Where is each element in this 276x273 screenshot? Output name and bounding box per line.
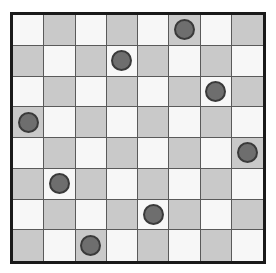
checkerboard	[10, 12, 266, 264]
board-cell-r5c5[interactable]	[138, 138, 169, 169]
board-cell-r5c1[interactable]	[13, 138, 44, 169]
board-cell-r6c7[interactable]	[201, 169, 232, 200]
checkerboard-grid	[13, 15, 263, 261]
board-cell-r5c2[interactable]	[44, 138, 75, 169]
board-cell-r4c6[interactable]	[169, 107, 200, 138]
board-cell-r8c5[interactable]	[138, 230, 169, 261]
board-cell-r8c1[interactable]	[13, 230, 44, 261]
board-cell-r6c8[interactable]	[232, 169, 263, 200]
board-cell-r2c7[interactable]	[201, 46, 232, 77]
board-cell-r5c4[interactable]	[107, 138, 138, 169]
board-cell-r7c7[interactable]	[201, 200, 232, 231]
board-cell-r6c6[interactable]	[169, 169, 200, 200]
board-cell-r8c8[interactable]	[232, 230, 263, 261]
board-cell-r1c4[interactable]	[107, 15, 138, 46]
board-cell-r1c6[interactable]	[169, 15, 200, 46]
board-cell-r2c3[interactable]	[76, 46, 107, 77]
board-cell-r3c5[interactable]	[138, 77, 169, 108]
board-cell-r5c7[interactable]	[201, 138, 232, 169]
game-piece-r5c8[interactable]	[237, 142, 258, 163]
board-cell-r1c8[interactable]	[232, 15, 263, 46]
board-cell-r2c6[interactable]	[169, 46, 200, 77]
board-cell-r5c8[interactable]	[232, 138, 263, 169]
board-cell-r3c3[interactable]	[76, 77, 107, 108]
board-cell-r3c1[interactable]	[13, 77, 44, 108]
board-cell-r4c7[interactable]	[201, 107, 232, 138]
board-cell-r8c6[interactable]	[169, 230, 200, 261]
board-cell-r4c5[interactable]	[138, 107, 169, 138]
board-cell-r8c7[interactable]	[201, 230, 232, 261]
game-piece-r7c5[interactable]	[143, 204, 164, 225]
board-cell-r2c8[interactable]	[232, 46, 263, 77]
board-cell-r7c2[interactable]	[44, 200, 75, 231]
board-cell-r2c5[interactable]	[138, 46, 169, 77]
game-piece-r8c3[interactable]	[80, 235, 101, 256]
board-cell-r6c2[interactable]	[44, 169, 75, 200]
board-cell-r5c6[interactable]	[169, 138, 200, 169]
board-cell-r3c4[interactable]	[107, 77, 138, 108]
board-cell-r3c2[interactable]	[44, 77, 75, 108]
board-cell-r7c3[interactable]	[76, 200, 107, 231]
board-cell-r1c1[interactable]	[13, 15, 44, 46]
game-piece-r3c7[interactable]	[205, 81, 226, 102]
game-piece-r6c2[interactable]	[49, 173, 70, 194]
board-cell-r6c3[interactable]	[76, 169, 107, 200]
board-cell-r7c8[interactable]	[232, 200, 263, 231]
board-cell-r3c6[interactable]	[169, 77, 200, 108]
board-cell-r5c3[interactable]	[76, 138, 107, 169]
board-cell-r1c7[interactable]	[201, 15, 232, 46]
game-piece-r2c4[interactable]	[111, 50, 132, 71]
board-cell-r1c5[interactable]	[138, 15, 169, 46]
board-cell-r7c5[interactable]	[138, 200, 169, 231]
board-cell-r7c4[interactable]	[107, 200, 138, 231]
board-cell-r4c2[interactable]	[44, 107, 75, 138]
board-cell-r2c2[interactable]	[44, 46, 75, 77]
board-cell-r8c3[interactable]	[76, 230, 107, 261]
board-cell-r6c1[interactable]	[13, 169, 44, 200]
board-cell-r7c6[interactable]	[169, 200, 200, 231]
board-cell-r2c1[interactable]	[13, 46, 44, 77]
game-piece-r1c6[interactable]	[174, 19, 195, 40]
board-cell-r8c2[interactable]	[44, 230, 75, 261]
board-cell-r6c4[interactable]	[107, 169, 138, 200]
board-cell-r3c7[interactable]	[201, 77, 232, 108]
board-cell-r1c3[interactable]	[76, 15, 107, 46]
board-cell-r4c1[interactable]	[13, 107, 44, 138]
board-cell-r8c4[interactable]	[107, 230, 138, 261]
board-cell-r7c1[interactable]	[13, 200, 44, 231]
board-cell-r1c2[interactable]	[44, 15, 75, 46]
game-piece-r4c1[interactable]	[18, 112, 39, 133]
board-cell-r6c5[interactable]	[138, 169, 169, 200]
board-cell-r4c4[interactable]	[107, 107, 138, 138]
board-cell-r2c4[interactable]	[107, 46, 138, 77]
board-cell-r3c8[interactable]	[232, 77, 263, 108]
board-cell-r4c3[interactable]	[76, 107, 107, 138]
board-cell-r4c8[interactable]	[232, 107, 263, 138]
